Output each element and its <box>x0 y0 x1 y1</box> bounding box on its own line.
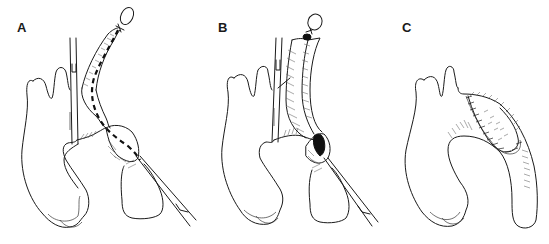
panel-b: B <box>180 0 380 244</box>
tied-vessel-tip <box>306 12 325 32</box>
surgical-illustration-figure: A <box>0 0 549 244</box>
panel-a: A <box>0 0 200 244</box>
panel-a-drawing <box>0 0 200 244</box>
vessel-segment <box>82 28 118 88</box>
guidewire-path <box>92 30 140 160</box>
suture-crosses <box>466 96 522 152</box>
panel-c: C <box>360 0 549 244</box>
panel-c-drawing <box>360 0 549 244</box>
vascular-clamp <box>272 38 282 142</box>
vessel-opening <box>313 134 324 156</box>
panel-b-drawing <box>180 0 380 244</box>
aortic-arch-outline <box>405 79 537 228</box>
lower-chamber-outline <box>121 164 163 219</box>
vascular-clamp <box>70 38 78 144</box>
lower-chamber-outline <box>309 168 349 223</box>
tied-vessel-tip <box>118 5 136 26</box>
